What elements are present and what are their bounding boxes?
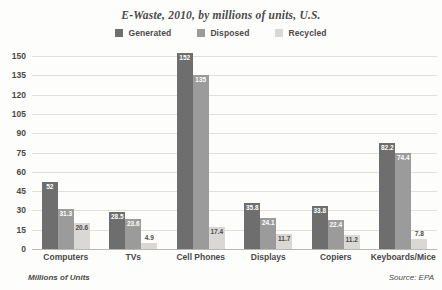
bar-value-label: 22.4 <box>329 222 342 229</box>
y-axis-tick: 30 <box>17 206 26 215</box>
bar-group: 33.822.411.2 <box>302 56 370 249</box>
bar-group: 15213517.4 <box>167 56 235 249</box>
y-axis-tick: 135 <box>12 71 26 80</box>
x-axis-tick: Keyboards/Mice <box>370 252 438 262</box>
y-axis-tick: 0 <box>21 245 26 254</box>
bar-series-layer: 5231.320.628.523.64.915213517.435.824.11… <box>32 56 437 249</box>
legend-label: Generated <box>128 28 171 38</box>
bar[interactable]: 11.2 <box>344 235 360 249</box>
bar[interactable]: 22.4 <box>328 220 344 249</box>
y-axis-tick: 45 <box>17 187 26 196</box>
bar[interactable]: 23.6 <box>125 219 141 249</box>
legend-swatch-icon <box>197 29 205 37</box>
bar[interactable]: 35.8 <box>244 203 260 249</box>
x-axis-tick: Cell Phones <box>167 252 235 262</box>
bar[interactable]: 20.6 <box>74 223 90 250</box>
bar-value-label: 35.8 <box>246 205 259 212</box>
bar[interactable]: 4.9 <box>141 243 157 249</box>
y-axis-tick-labels: 1501351201059075604530150 <box>0 56 30 249</box>
bar[interactable]: 17.4 <box>209 227 225 249</box>
x-axis-tick: Displays <box>235 252 303 262</box>
bar[interactable]: 24.1 <box>260 218 276 249</box>
bar-value-label: 33.8 <box>313 208 326 215</box>
bar-value-label: 28.5 <box>111 214 124 221</box>
bar-value-label: 152 <box>179 55 190 62</box>
bar-value-label: 31.3 <box>59 211 72 218</box>
legend-swatch-icon <box>115 29 123 37</box>
bar[interactable]: 52 <box>42 182 58 249</box>
y-axis-tick: 90 <box>17 129 26 138</box>
legend-item-generated[interactable]: Generated <box>115 28 171 38</box>
legend-swatch-icon <box>275 29 283 37</box>
bar[interactable]: 11.7 <box>276 234 292 249</box>
bar-value-label: 11.7 <box>278 236 290 243</box>
bar[interactable]: 82.2 <box>379 143 395 249</box>
bar[interactable]: 28.5 <box>109 212 125 249</box>
source-note: Source: EPA <box>389 273 434 282</box>
bar-value-label: 20.6 <box>75 225 88 232</box>
bar[interactable]: 135 <box>193 75 209 249</box>
bar-value-label: 74.4 <box>397 155 410 162</box>
x-axis-tick: TVs <box>100 252 168 262</box>
legend-item-recycled[interactable]: Recycled <box>275 28 326 38</box>
bar-value-label: 135 <box>195 77 206 84</box>
bar-value-label: 11.2 <box>346 237 358 244</box>
bar-value-label: 24.1 <box>262 220 275 227</box>
axis-unit-note: Millions of Units <box>28 273 90 282</box>
x-axis-tick-labels: ComputersTVsCell PhonesDisplaysCopiersKe… <box>32 252 437 262</box>
chart-legend: GeneratedDisposedRecycled <box>0 28 442 38</box>
x-axis-tick: Computers <box>32 252 100 262</box>
page-title: E-Waste, 2010, by millions of units, U.S… <box>0 0 442 21</box>
bar-value-label: 52 <box>46 184 53 191</box>
legend-label: Disposed <box>210 28 249 38</box>
axis-baseline <box>32 249 437 250</box>
y-axis-tick: 75 <box>17 148 26 157</box>
y-axis-tick: 15 <box>17 225 26 234</box>
bar-group: 35.824.111.7 <box>235 56 303 249</box>
legend-label: Recycled <box>288 28 326 38</box>
bar-value-label: 7.8 <box>415 231 424 238</box>
bar-value-label: 4.9 <box>145 235 154 242</box>
bar-value-label: 23.6 <box>127 221 140 228</box>
y-axis-tick: 150 <box>12 52 26 61</box>
plot-area: 5231.320.628.523.64.915213517.435.824.11… <box>32 56 437 249</box>
bar-value-label: 17.4 <box>210 229 223 236</box>
bar[interactable]: 7.8 <box>411 239 427 249</box>
x-axis-tick: Copiers <box>302 252 370 262</box>
bar[interactable]: 31.3 <box>58 209 74 249</box>
bar-group: 28.523.64.9 <box>100 56 168 249</box>
bar-group: 82.274.47.8 <box>370 56 438 249</box>
bar-group: 5231.320.6 <box>32 56 100 249</box>
y-axis-tick: 120 <box>12 90 26 99</box>
bar[interactable]: 152 <box>177 53 193 249</box>
bar-value-label: 82.2 <box>381 145 394 152</box>
bar[interactable]: 74.4 <box>395 153 411 249</box>
legend-item-disposed[interactable]: Disposed <box>197 28 249 38</box>
y-axis-tick: 60 <box>17 168 26 177</box>
bar[interactable]: 33.8 <box>312 206 328 249</box>
y-axis-tick: 105 <box>12 110 26 119</box>
